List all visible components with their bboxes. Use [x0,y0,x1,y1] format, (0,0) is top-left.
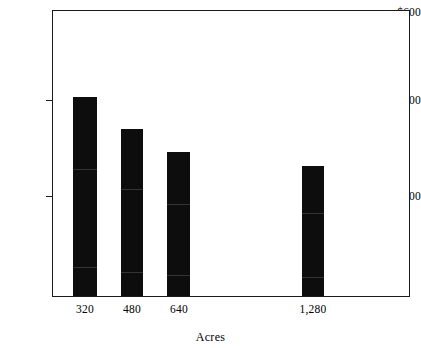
bar-480 [121,129,143,296]
x-axis-title: Acres [0,330,421,344]
bar-1280 [302,166,324,296]
x-axis-label-320: 320 [63,303,107,316]
bar-640 [167,152,190,296]
bar-320 [73,97,97,296]
bar-chart: $600 $400 $200 320 480 640 1,280 Acres [0,0,421,348]
x-axis-label-1280: 1,280 [288,303,338,316]
x-axis-label-480: 480 [110,303,154,316]
x-axis-label-640: 640 [157,303,201,316]
plot-area [52,10,410,297]
